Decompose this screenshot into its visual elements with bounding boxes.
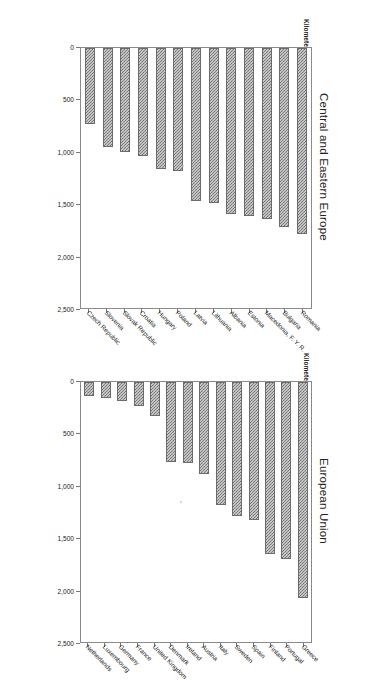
bar-row <box>103 48 113 308</box>
category-label: Spain <box>251 643 268 660</box>
bar <box>85 48 95 124</box>
category-label: Austria <box>201 643 220 662</box>
axis-tick <box>76 204 80 205</box>
axis-tick <box>106 309 107 313</box>
axis-tick <box>154 643 155 647</box>
bar-row <box>249 382 259 642</box>
axis-tick <box>76 257 80 258</box>
bar-row <box>101 382 111 642</box>
value-tick-label: 1,500 <box>57 535 74 542</box>
axis-tick <box>137 643 138 647</box>
bar <box>191 48 201 201</box>
bar-row <box>279 48 289 308</box>
category-label: Italy <box>217 643 230 656</box>
category-label: Poland <box>175 309 194 328</box>
axis-tick <box>76 99 80 100</box>
bar <box>183 382 193 463</box>
chart-title: European Union <box>318 351 330 651</box>
axis-tick <box>177 309 178 313</box>
bar <box>209 48 219 203</box>
category-label: Hungary <box>157 309 179 331</box>
bar-row <box>226 48 236 308</box>
category-label: Latvia <box>193 309 210 326</box>
category-label: Croatia <box>139 309 159 329</box>
bar-row <box>199 382 209 642</box>
bar <box>216 382 226 505</box>
plot-area <box>80 381 312 643</box>
page-speck <box>180 501 182 503</box>
bar-row <box>173 48 183 308</box>
bar <box>279 48 289 227</box>
category-label: France <box>135 643 154 662</box>
axis-tick <box>270 643 271 647</box>
bar-rows <box>81 48 311 308</box>
bar <box>103 48 113 147</box>
bar-row <box>191 48 201 308</box>
bar-row <box>298 382 308 642</box>
bar-row <box>216 382 226 642</box>
bar-row <box>262 48 272 308</box>
category-label: Netherlands <box>85 643 114 672</box>
page-speck <box>182 165 184 167</box>
bar <box>298 382 308 598</box>
category-label: Estonia <box>246 309 266 329</box>
axis-tick <box>76 433 80 434</box>
bar <box>138 48 148 156</box>
category-label: Germany <box>118 643 142 667</box>
axis-tick <box>76 152 80 153</box>
axis-tick <box>104 643 105 647</box>
bar-row <box>150 382 160 642</box>
chart-european-union: European Union Kilometers GreecePortugal… <box>0 334 368 668</box>
category-label: Portugal <box>284 643 306 665</box>
bar <box>249 382 259 520</box>
axis-tick <box>76 309 80 310</box>
bar <box>281 382 291 559</box>
axis-tick <box>220 643 221 647</box>
bar-row <box>134 382 144 642</box>
bar-row <box>117 382 127 642</box>
bar <box>265 382 275 554</box>
bar <box>84 382 94 396</box>
bar-row <box>138 48 148 308</box>
bar-row <box>297 48 307 308</box>
axis-tick <box>159 309 160 313</box>
bar-row <box>265 382 275 642</box>
bar <box>166 382 176 462</box>
bar-row <box>156 48 166 308</box>
category-label: Slovenia <box>103 309 125 331</box>
value-tick-label: 0 <box>70 378 74 385</box>
axis-tick <box>76 47 80 48</box>
axis-tick <box>87 643 88 647</box>
axis-tick <box>141 309 142 313</box>
bar-row <box>120 48 130 308</box>
value-tick-label: 2,500 <box>57 640 74 647</box>
bar <box>297 48 307 234</box>
bar <box>199 382 209 474</box>
bar-row <box>244 48 254 308</box>
bar <box>244 48 254 216</box>
axis-tick <box>76 591 80 592</box>
category-label: Denmark <box>168 643 191 666</box>
value-tick-label: 2,500 <box>57 306 74 313</box>
value-tick-label: 2,000 <box>57 587 74 594</box>
bar <box>232 382 242 516</box>
category-label: Sweden <box>234 643 255 664</box>
axis-tick <box>302 309 303 313</box>
axis-tick <box>187 643 188 647</box>
axis-tick <box>76 486 80 487</box>
bar-row <box>166 382 176 642</box>
axis-tick <box>303 643 304 647</box>
category-label: United Kingdom <box>151 643 188 680</box>
bar-rows <box>81 382 311 642</box>
bar-row <box>183 382 193 642</box>
bar <box>226 48 236 214</box>
bar <box>120 48 130 152</box>
category-label: Bulgaria <box>282 309 304 331</box>
axis-tick <box>231 309 232 313</box>
value-tick-label: 1,000 <box>57 482 74 489</box>
axis-tick <box>120 643 121 647</box>
axis-tick <box>76 643 80 644</box>
axis-tick <box>249 309 250 313</box>
axis-tick <box>236 643 237 647</box>
